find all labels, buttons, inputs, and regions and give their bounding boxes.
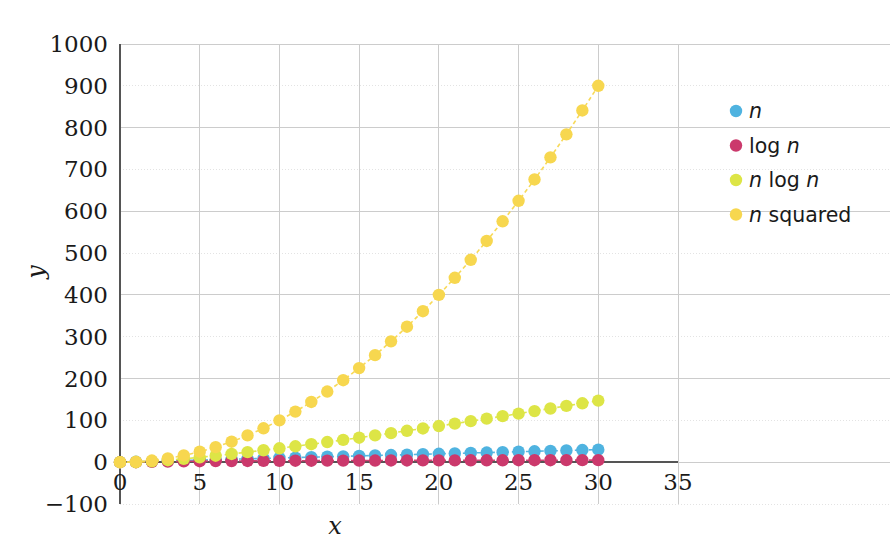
data-point-marker bbox=[353, 431, 365, 443]
data-point-marker bbox=[289, 440, 301, 452]
y-tick-label: 0 bbox=[93, 449, 108, 475]
y-tick-label: 900 bbox=[64, 73, 108, 99]
x-tick-label: 25 bbox=[504, 469, 533, 495]
data-point-marker bbox=[273, 414, 285, 426]
data-point-marker bbox=[273, 442, 285, 454]
data-point-marker bbox=[465, 454, 477, 466]
legend-label: log n bbox=[749, 134, 800, 158]
data-point-marker bbox=[433, 289, 445, 301]
data-point-marker bbox=[417, 454, 429, 466]
x-tick-label: 30 bbox=[584, 469, 613, 495]
data-point-marker bbox=[576, 104, 588, 116]
y-tick-label: 300 bbox=[64, 324, 108, 350]
x-tick-label: 0 bbox=[113, 469, 128, 495]
y-tick-label: 400 bbox=[64, 282, 108, 308]
x-tick-label: 20 bbox=[424, 469, 453, 495]
data-point-marker bbox=[369, 454, 381, 466]
y-tick-label: 700 bbox=[64, 156, 108, 182]
data-point-marker bbox=[576, 454, 588, 466]
data-point-marker bbox=[528, 454, 540, 466]
data-point-marker bbox=[353, 454, 365, 466]
x-tick-label: 15 bbox=[345, 469, 374, 495]
data-point-marker bbox=[162, 452, 174, 464]
data-point-marker bbox=[305, 438, 317, 450]
data-point-marker bbox=[560, 400, 572, 412]
data-point-marker bbox=[321, 454, 333, 466]
y-tick-label: 100 bbox=[64, 407, 108, 433]
data-point-marker bbox=[241, 429, 253, 441]
data-point-marker bbox=[544, 151, 556, 163]
legend-label: n log n bbox=[749, 168, 819, 192]
data-point-marker bbox=[305, 396, 317, 408]
data-point-marker bbox=[209, 441, 221, 453]
data-point-marker bbox=[560, 128, 572, 140]
data-point-marker bbox=[528, 405, 540, 417]
data-point-marker bbox=[353, 362, 365, 374]
data-point-marker bbox=[465, 415, 477, 427]
data-point-marker bbox=[496, 410, 508, 422]
data-point-marker bbox=[433, 420, 445, 432]
data-point-marker bbox=[465, 254, 477, 266]
data-point-marker bbox=[417, 305, 429, 317]
data-point-marker bbox=[146, 454, 158, 466]
data-point-marker bbox=[114, 456, 126, 468]
data-point-marker bbox=[417, 422, 429, 434]
data-point-marker bbox=[528, 173, 540, 185]
data-point-marker bbox=[496, 215, 508, 227]
data-point-marker bbox=[401, 454, 413, 466]
data-point-marker bbox=[449, 454, 461, 466]
data-point-marker bbox=[592, 394, 604, 406]
data-point-marker bbox=[496, 454, 508, 466]
data-point-marker bbox=[401, 320, 413, 332]
data-point-marker bbox=[544, 402, 556, 414]
data-point-marker bbox=[369, 349, 381, 361]
data-point-marker bbox=[225, 435, 237, 447]
data-point-marker bbox=[289, 455, 301, 467]
data-point-marker bbox=[576, 397, 588, 409]
data-point-marker bbox=[560, 454, 572, 466]
data-point-marker bbox=[385, 427, 397, 439]
data-point-marker bbox=[512, 195, 524, 207]
y-axis-title: y bbox=[22, 265, 50, 280]
data-point-marker bbox=[544, 454, 556, 466]
legend-marker bbox=[730, 174, 742, 186]
y-tick-label: 1000 bbox=[49, 31, 108, 57]
legend-marker bbox=[730, 208, 742, 220]
data-point-marker bbox=[321, 436, 333, 448]
data-point-marker bbox=[480, 412, 492, 424]
data-point-marker bbox=[337, 374, 349, 386]
data-point-marker bbox=[512, 454, 524, 466]
legend-marker bbox=[730, 139, 742, 151]
data-point-marker bbox=[305, 454, 317, 466]
data-point-marker bbox=[592, 80, 604, 92]
data-point-marker bbox=[321, 385, 333, 397]
data-point-marker bbox=[257, 422, 269, 434]
legend-label: n bbox=[749, 99, 762, 123]
data-point-marker bbox=[385, 454, 397, 466]
data-point-marker bbox=[480, 454, 492, 466]
y-tick-label: 600 bbox=[64, 198, 108, 224]
y-tick-label: 500 bbox=[64, 240, 108, 266]
data-point-marker bbox=[257, 455, 269, 467]
x-tick-label: 10 bbox=[265, 469, 294, 495]
data-point-marker bbox=[130, 456, 142, 468]
data-point-marker bbox=[337, 434, 349, 446]
data-point-marker bbox=[194, 446, 206, 458]
chart-canvas: −100010020030040050060070080090010000510… bbox=[0, 0, 890, 548]
y-tick-label: 800 bbox=[64, 115, 108, 141]
data-point-marker bbox=[592, 454, 604, 466]
y-tick-label: −100 bbox=[45, 491, 108, 517]
data-point-marker bbox=[289, 405, 301, 417]
data-point-marker bbox=[480, 235, 492, 247]
x-axis-title: x bbox=[328, 512, 342, 540]
data-point-marker bbox=[449, 417, 461, 429]
data-point-marker bbox=[273, 455, 285, 467]
data-point-marker bbox=[257, 444, 269, 456]
data-point-marker bbox=[401, 425, 413, 437]
legend-label: n squared bbox=[749, 203, 851, 227]
data-point-marker bbox=[385, 335, 397, 347]
data-point-marker bbox=[337, 454, 349, 466]
chart-figure: −100010020030040050060070080090010000510… bbox=[0, 0, 890, 548]
data-point-marker bbox=[512, 407, 524, 419]
data-point-marker bbox=[449, 272, 461, 284]
